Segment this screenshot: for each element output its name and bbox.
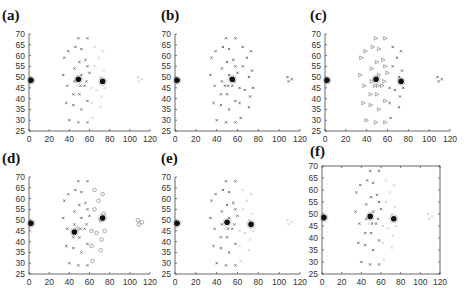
- data-point: [66, 85, 68, 87]
- x-tick-label: 100: [272, 277, 286, 287]
- data-point: [428, 218, 430, 220]
- scatter-panel-f: (f)02040608010012025303540455055606570: [309, 143, 448, 287]
- data-point: [400, 50, 402, 52]
- y-tick-label: 55: [309, 197, 319, 207]
- y-tick-label: 25: [312, 126, 322, 136]
- y-tick-label: 50: [312, 72, 322, 82]
- data-point: [67, 50, 69, 52]
- y-tick-label: 25: [309, 269, 319, 279]
- data-point: [78, 236, 80, 238]
- data-point: [84, 59, 86, 61]
- data-point: [385, 179, 387, 181]
- data-point: [382, 242, 384, 244]
- x-tick-label: 20: [191, 134, 201, 144]
- data-point: [136, 218, 140, 222]
- y-tick-label: 65: [16, 183, 26, 193]
- data-point: [213, 228, 215, 230]
- y-tick-label: 70: [162, 172, 172, 182]
- data-point: [250, 193, 252, 195]
- x-tick-label: 60: [85, 134, 95, 144]
- y-tick-label: 60: [16, 194, 26, 204]
- data-point: [79, 228, 81, 230]
- data-point: [103, 229, 107, 233]
- data-point: [382, 225, 384, 227]
- y-tick-label: 25: [162, 126, 172, 136]
- data-point: [213, 85, 215, 87]
- data-point: [388, 87, 390, 89]
- data-point: [244, 232, 246, 234]
- data-point: [97, 199, 101, 203]
- data-point: [388, 102, 390, 104]
- data-point: [358, 223, 360, 225]
- data-point: [385, 201, 387, 203]
- data-point: [287, 80, 289, 82]
- data-point: [78, 61, 80, 63]
- data-point: [242, 208, 244, 210]
- data-point: [246, 57, 248, 59]
- data-point: [101, 95, 103, 97]
- y-tick-label: 60: [312, 51, 322, 61]
- centroid-marker: [398, 79, 404, 85]
- data-point: [62, 74, 64, 76]
- data-point: [80, 217, 82, 219]
- data-point: [93, 188, 97, 192]
- data-point: [371, 45, 375, 49]
- data-point: [76, 85, 78, 87]
- data-point: [88, 215, 90, 217]
- centroid-marker: [373, 76, 379, 82]
- data-point: [72, 247, 74, 249]
- x-tick-label: 20: [44, 134, 54, 144]
- y-tick-label: 65: [162, 183, 172, 193]
- data-point: [86, 243, 88, 245]
- data-point: [77, 37, 79, 39]
- data-point: [86, 264, 88, 266]
- data-point: [364, 244, 366, 246]
- y-tick-label: 65: [16, 40, 26, 50]
- data-point: [249, 238, 251, 240]
- y-tick-label: 40: [309, 233, 319, 243]
- data-point: [138, 80, 140, 82]
- y-tick-label: 45: [309, 221, 319, 231]
- data-point: [101, 192, 105, 196]
- y-tick-label: 50: [16, 72, 26, 82]
- data-point: [391, 247, 393, 249]
- data-point: [77, 264, 79, 266]
- data-point: [374, 37, 378, 41]
- x-tick-label: 60: [376, 277, 386, 287]
- data-point: [357, 242, 359, 244]
- data-point: [377, 47, 381, 51]
- x-tick-label: 120: [293, 134, 307, 144]
- y-tick-label: 60: [162, 194, 172, 204]
- data-point: [236, 72, 238, 74]
- centroid-marker: [367, 214, 373, 220]
- data-point: [370, 67, 374, 71]
- data-point: [364, 232, 366, 234]
- y-tick-label: 65: [162, 40, 172, 50]
- data-point: [364, 49, 368, 53]
- x-tick-label: 60: [85, 277, 95, 287]
- x-tick-label: 60: [383, 134, 393, 144]
- data-point: [380, 84, 384, 88]
- y-tick-label: 55: [16, 204, 26, 214]
- centroid-marker: [100, 79, 106, 85]
- data-point: [396, 57, 398, 59]
- data-point: [354, 211, 356, 213]
- y-tick-label: 40: [16, 237, 26, 247]
- data-point: [377, 218, 379, 220]
- data-point: [242, 65, 244, 67]
- data-point: [378, 239, 380, 241]
- x-tick-label: 100: [422, 134, 436, 144]
- data-point: [249, 95, 251, 97]
- y-tick-label: 45: [16, 226, 26, 236]
- data-point: [246, 200, 248, 202]
- data-point: [74, 46, 76, 48]
- data-point: [248, 106, 250, 108]
- y-tick-label: 55: [162, 204, 172, 214]
- data-point: [225, 121, 227, 123]
- data-point: [228, 48, 230, 50]
- data-point: [85, 80, 87, 82]
- data-point: [238, 102, 240, 104]
- y-tick-label: 70: [162, 29, 172, 39]
- data-point: [77, 180, 79, 182]
- data-point: [233, 223, 235, 225]
